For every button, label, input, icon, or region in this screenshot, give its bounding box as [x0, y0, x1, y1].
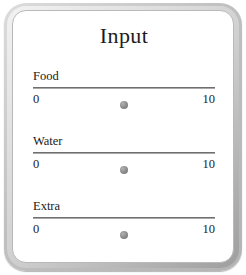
slider-label-food: Food — [33, 69, 59, 84]
slider-min-extra: 0 — [33, 222, 39, 237]
slider-min-food: 0 — [33, 92, 39, 107]
page-title: Input — [13, 23, 234, 49]
input-panel: Input Food 0 10 Water 0 10 Extra 0 10 — [12, 10, 234, 263]
panel-frame: Input Food 0 10 Water 0 10 Extra 0 10 — [4, 3, 242, 271]
slider-max-extra: 10 — [203, 222, 216, 237]
slider-label-water: Water — [33, 134, 63, 149]
slider-max-water: 10 — [203, 157, 216, 172]
slider-handle-water[interactable] — [120, 166, 128, 174]
slider-track-water[interactable] — [33, 152, 215, 154]
slider-row-water[interactable]: Water 0 10 — [33, 134, 215, 180]
slider-row-food[interactable]: Food 0 10 — [33, 69, 215, 115]
slider-handle-extra[interactable] — [120, 231, 128, 239]
slider-min-water: 0 — [33, 157, 39, 172]
slider-track-food[interactable] — [33, 87, 215, 89]
slider-max-food: 10 — [203, 92, 216, 107]
slider-row-extra[interactable]: Extra 0 10 — [33, 199, 215, 245]
slider-label-extra: Extra — [33, 199, 60, 214]
slider-track-extra[interactable] — [33, 217, 215, 219]
slider-handle-food[interactable] — [120, 101, 128, 109]
